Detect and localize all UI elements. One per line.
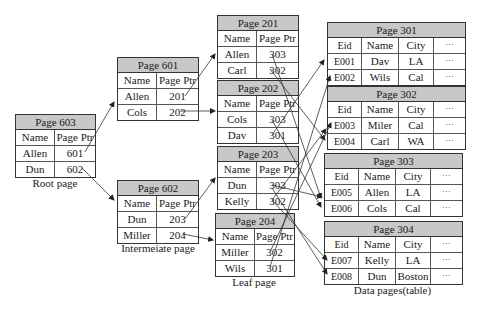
table-row: Allen 601 bbox=[16, 146, 95, 162]
table-header-row: Name Page Ptr bbox=[118, 196, 198, 212]
table-title: Page 601 bbox=[118, 58, 198, 73]
table-row: Miller 204 bbox=[118, 228, 198, 243]
name-cell: Cols bbox=[218, 112, 257, 127]
page-ptr-cell: 204 bbox=[157, 228, 198, 243]
city-cell: LA bbox=[399, 54, 434, 69]
name-cell: Dav bbox=[362, 54, 399, 69]
table-row: E004 Carl WA ⋯ bbox=[328, 134, 465, 149]
intermediate-page-602: Page 602 Name Page Ptr Dun 203 Miller 20… bbox=[117, 180, 199, 244]
table-row: E003 Miler Cal ⋯ bbox=[328, 118, 465, 134]
table-title: Page 301 bbox=[328, 23, 465, 38]
column-header: Eid bbox=[325, 169, 359, 184]
table-row: E006 Cols Cal ⋯ bbox=[325, 201, 462, 216]
table-header-row: Eid Name City ⋯ bbox=[325, 169, 462, 185]
column-header: City bbox=[399, 102, 434, 117]
eid-cell: E007 bbox=[325, 253, 359, 268]
eid-cell: E003 bbox=[328, 118, 362, 133]
table-header-row: Name Page Ptr bbox=[218, 162, 298, 178]
table-row: E005 Allen LA ⋯ bbox=[325, 185, 462, 201]
intermediate-page-601: Page 601 Name Page Ptr Allen 201 Cols 20… bbox=[117, 57, 199, 121]
table-row: Cols 202 bbox=[118, 105, 198, 120]
table-row: E001 Dav LA ⋯ bbox=[328, 54, 465, 70]
page-ptr-cell: 301 bbox=[255, 261, 294, 276]
data-page-304: Page 304 Eid Name City ⋯ E007 Kelly LA ⋯… bbox=[324, 221, 463, 285]
name-cell: Allen bbox=[218, 47, 257, 62]
column-header: Name bbox=[118, 73, 157, 88]
name-cell: Dun bbox=[16, 162, 55, 177]
column-header: City bbox=[399, 38, 434, 53]
column-header: Name bbox=[359, 237, 396, 252]
column-header: Name bbox=[218, 162, 257, 177]
page-ptr-cell: 303 bbox=[257, 112, 298, 127]
page-ptr-cell: 302 bbox=[257, 63, 298, 78]
city-cell: Cal bbox=[399, 118, 434, 133]
name-cell: Carl bbox=[218, 63, 257, 78]
table-title: Page 203 bbox=[218, 147, 298, 162]
column-header: ⋯ bbox=[431, 237, 462, 252]
table-row: Wils 301 bbox=[216, 261, 294, 276]
name-cell: Carl bbox=[362, 134, 399, 149]
name-cell: Cols bbox=[118, 105, 157, 120]
column-header: Page Ptr bbox=[257, 31, 298, 46]
column-header: ⋯ bbox=[431, 169, 462, 184]
leaf-page-204: Page 204 Name Page Ptr Miller 302 Wils 3… bbox=[215, 213, 295, 277]
city-cell: LA bbox=[396, 253, 431, 268]
leaf-page-caption: Leaf page bbox=[215, 276, 293, 288]
table-title: Page 304 bbox=[325, 222, 462, 237]
ellipsis-cell: ⋯ bbox=[434, 70, 465, 85]
page-ptr-cell: 202 bbox=[157, 105, 198, 120]
table-header-row: Name Page Ptr bbox=[218, 31, 298, 47]
table-row: Allen 201 bbox=[118, 89, 198, 105]
name-cell: Miller bbox=[216, 245, 255, 260]
name-cell: Wils bbox=[362, 70, 399, 85]
city-cell: LA bbox=[396, 185, 431, 200]
column-header: Name bbox=[118, 196, 157, 211]
column-header: Name bbox=[359, 169, 396, 184]
table-row: E007 Kelly LA ⋯ bbox=[325, 253, 462, 269]
leaf-page-202: Page 202 Name Page Ptr Cols 303 Dav 301 bbox=[217, 80, 299, 144]
city-cell: Cal bbox=[399, 70, 434, 85]
table-row: Dun 303 bbox=[218, 178, 298, 194]
table-row: Cols 303 bbox=[218, 112, 298, 128]
column-header: Eid bbox=[328, 102, 362, 117]
name-cell: Allen bbox=[359, 185, 396, 200]
column-header: ⋯ bbox=[434, 102, 465, 117]
name-cell: Allen bbox=[16, 146, 55, 161]
table-title: Page 302 bbox=[328, 87, 465, 102]
table-header-row: Name Page Ptr bbox=[118, 73, 198, 89]
city-cell: WA bbox=[399, 134, 434, 149]
table-title: Page 201 bbox=[218, 16, 298, 31]
page-ptr-cell: 203 bbox=[157, 212, 198, 227]
column-header: Name bbox=[218, 96, 257, 111]
page-ptr-cell: 303 bbox=[257, 47, 298, 62]
column-header: Name bbox=[218, 31, 257, 46]
column-header: Page Ptr bbox=[255, 229, 294, 244]
data-pages-caption: Data pages(table) bbox=[324, 284, 461, 296]
table-row: E002 Wils Cal ⋯ bbox=[328, 70, 465, 85]
name-cell: Wils bbox=[216, 261, 255, 276]
table-row: E008 Dun Boston ⋯ bbox=[325, 269, 462, 284]
table-header-row: Name Page Ptr bbox=[16, 130, 95, 146]
table-row: Carl 302 bbox=[218, 63, 298, 78]
ellipsis-cell: ⋯ bbox=[431, 269, 462, 284]
name-cell: Dav bbox=[218, 128, 257, 143]
column-header: Eid bbox=[328, 38, 362, 53]
ellipsis-cell: ⋯ bbox=[434, 134, 465, 149]
city-cell: Boston bbox=[396, 269, 431, 284]
table-row: Dun 602 bbox=[16, 162, 95, 177]
column-header: Eid bbox=[325, 237, 359, 252]
eid-cell: E006 bbox=[325, 201, 359, 216]
column-header: City bbox=[396, 169, 431, 184]
ellipsis-cell: ⋯ bbox=[431, 253, 462, 268]
eid-cell: E005 bbox=[325, 185, 359, 200]
column-header: Page Ptr bbox=[55, 130, 95, 145]
name-cell: Miller bbox=[118, 228, 157, 243]
table-row: Dun 203 bbox=[118, 212, 198, 228]
column-header: Page Ptr bbox=[257, 162, 298, 177]
page-ptr-cell: 601 bbox=[55, 146, 95, 161]
table-row: Dav 301 bbox=[218, 128, 298, 143]
column-header: Name bbox=[216, 229, 255, 244]
name-cell: Cols bbox=[359, 201, 396, 216]
name-cell: Dun bbox=[218, 178, 257, 193]
table-header-row: Eid Name City ⋯ bbox=[328, 38, 465, 54]
